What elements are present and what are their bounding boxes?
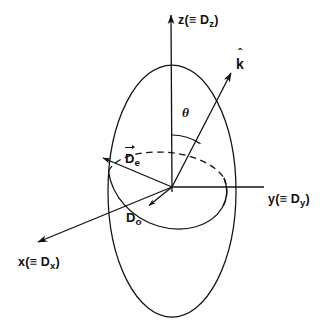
d-e-label-subscript: e bbox=[134, 157, 140, 168]
k-hat-label: ˆk bbox=[236, 57, 244, 71]
z-axis-label: z(≡ Dz) bbox=[178, 14, 219, 29]
y-axis-label: y(≡ Dy) bbox=[268, 193, 310, 208]
diagram-canvas bbox=[0, 0, 334, 336]
z-axis bbox=[171, 15, 172, 192]
d-e-label-base: D bbox=[125, 151, 134, 166]
z-axis-label-close: ) bbox=[214, 13, 218, 27]
d-e-vector-accent: D bbox=[125, 152, 134, 165]
k-hat-vector bbox=[172, 73, 231, 187]
tilted-ellipse-back-lower bbox=[222, 178, 227, 208]
k-hat-symbol-wrap: ˆk bbox=[236, 57, 244, 71]
x-axis bbox=[38, 187, 172, 242]
y-axis-label-base: y(≡ D bbox=[268, 192, 300, 206]
d-o-label: Do bbox=[126, 211, 141, 227]
d-o-label-subscript: o bbox=[135, 216, 141, 227]
d-e-label: De bbox=[125, 152, 140, 168]
figure-root: z(≡ Dz) y(≡ Dy) x(≡ Dx) ˆk θ De Do bbox=[0, 0, 334, 336]
d-o-vector bbox=[149, 187, 172, 206]
y-axis-label-close: ) bbox=[305, 192, 309, 206]
k-hat-circumflex-icon: ˆ bbox=[238, 48, 242, 60]
x-axis-label: x(≡ Dx) bbox=[18, 256, 60, 271]
x-axis-label-close: ) bbox=[55, 255, 59, 269]
x-axis-label-base: x(≡ D bbox=[18, 255, 50, 269]
theta-label: θ bbox=[182, 106, 189, 120]
z-axis-label-base: z(≡ D bbox=[178, 13, 209, 27]
d-o-label-base: D bbox=[126, 210, 135, 225]
